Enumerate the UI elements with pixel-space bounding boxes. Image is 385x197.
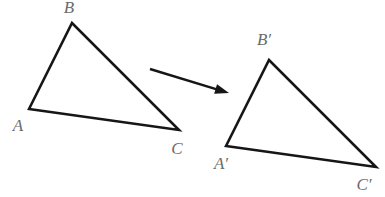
triangle-translation-canvas: A B C A′ B′ C′ (0, 0, 385, 197)
vertex-label-c: C (171, 139, 183, 158)
vertex-label-b: B (64, 0, 75, 17)
vertex-label-a: A (12, 116, 24, 135)
vertex-label-a-prime: A′ (213, 154, 228, 173)
geometry-figure: A B C A′ B′ C′ (0, 0, 385, 197)
vertex-label-b-prime: B′ (257, 30, 271, 49)
vertex-label-c-prime: C′ (356, 175, 371, 194)
figure-background (0, 0, 385, 197)
